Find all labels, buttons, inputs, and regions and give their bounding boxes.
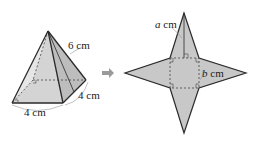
- pyramid-net: a cm b cm: [125, 13, 246, 133]
- base-front-label: 4 cm: [24, 106, 46, 118]
- net-outline: [125, 13, 246, 133]
- base-right-label: 4 cm: [78, 89, 100, 101]
- net-side-label: b cm: [202, 67, 224, 79]
- right-arrow-icon: [102, 68, 114, 78]
- diagram-canvas: 6 cm 4 cm 4 cm a cm b cm: [0, 0, 255, 143]
- slant-edge-label: 6 cm: [68, 39, 90, 51]
- net-height-label: a cm: [155, 18, 177, 30]
- square-pyramid: 6 cm 4 cm 4 cm: [12, 31, 100, 118]
